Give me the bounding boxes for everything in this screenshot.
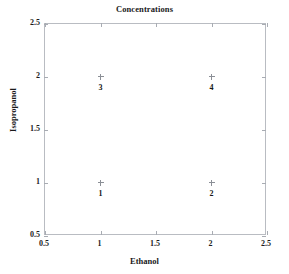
y-tick-mark (44, 236, 48, 237)
x-tick-mark (101, 231, 102, 235)
x-tick-mark (45, 231, 46, 235)
plot-area: 1234 (44, 23, 266, 235)
x-tick-label: 2 (196, 239, 226, 248)
plus-marker-icon (209, 74, 215, 80)
scatter-chart-figure: Concentrations 1234 0.511.522.5 0.511.52… (0, 0, 289, 274)
data-point-label: 2 (202, 189, 222, 198)
x-tick-mark (101, 23, 102, 27)
x-tick-mark (156, 23, 157, 27)
y-tick-label: 2.5 (20, 18, 40, 27)
plus-marker-icon (209, 180, 215, 186)
data-point-label: 1 (91, 189, 111, 198)
y-tick-label: 1 (20, 177, 40, 186)
x-tick-mark (212, 231, 213, 235)
x-tick-mark (267, 23, 268, 27)
y-tick-mark (262, 236, 266, 237)
y-axis-label: Isopropanol (8, 65, 18, 155)
plus-marker-icon (98, 180, 104, 186)
y-tick-label: 0.5 (20, 230, 40, 239)
y-tick-mark (44, 77, 48, 78)
x-tick-label: 0.5 (29, 239, 59, 248)
y-tick-mark (262, 130, 266, 131)
y-tick-mark (262, 183, 266, 184)
x-axis-label: Ethanol (0, 256, 289, 266)
y-tick-mark (44, 130, 48, 131)
y-tick-label: 1.5 (20, 124, 40, 133)
y-tick-mark (44, 183, 48, 184)
x-tick-label: 2.5 (251, 239, 281, 248)
x-tick-mark (156, 231, 157, 235)
data-point-label: 4 (202, 83, 222, 92)
plus-marker-icon (98, 74, 104, 80)
data-point-label: 3 (91, 83, 111, 92)
chart-title: Concentrations (0, 4, 289, 14)
x-tick-label: 1 (85, 239, 115, 248)
x-tick-mark (212, 23, 213, 27)
y-tick-label: 2 (20, 71, 40, 80)
x-tick-label: 1.5 (140, 239, 170, 248)
y-tick-mark (262, 24, 266, 25)
x-tick-mark (267, 231, 268, 235)
y-tick-mark (262, 77, 266, 78)
y-tick-mark (44, 24, 48, 25)
